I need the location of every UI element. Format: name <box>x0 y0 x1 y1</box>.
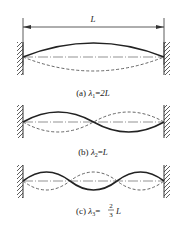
left-wall-hatch <box>17 105 23 138</box>
panel-b: (b) λ2=L <box>17 105 170 158</box>
left-wall-hatch <box>17 165 23 198</box>
fraction-denominator: 3 <box>109 211 113 219</box>
dimension-label: L <box>89 14 95 24</box>
left-wall-hatch <box>17 42 23 75</box>
fraction-numerator: 2 <box>109 202 113 210</box>
arrow-right-icon <box>156 25 164 29</box>
right-wall-hatch <box>164 42 170 75</box>
caption-c-value: L <box>115 206 121 216</box>
caption-b: (b) λ2=L <box>78 147 108 158</box>
arrow-left-icon <box>23 25 31 29</box>
standing-wave-diagram: L (a) λ1=2L (b) λ2=L ( <box>0 0 181 231</box>
panel-c: (c) λ3= 2 3 L <box>17 165 170 219</box>
right-wall-hatch <box>164 105 170 138</box>
caption-a: (a) λ1=2L <box>76 88 110 99</box>
caption-c: (c) λ3= <box>76 206 100 217</box>
wave-dashed <box>23 57 164 71</box>
right-wall-hatch <box>164 165 170 198</box>
panel-a: (a) λ1=2L <box>17 42 170 99</box>
wave-solid <box>23 43 164 57</box>
